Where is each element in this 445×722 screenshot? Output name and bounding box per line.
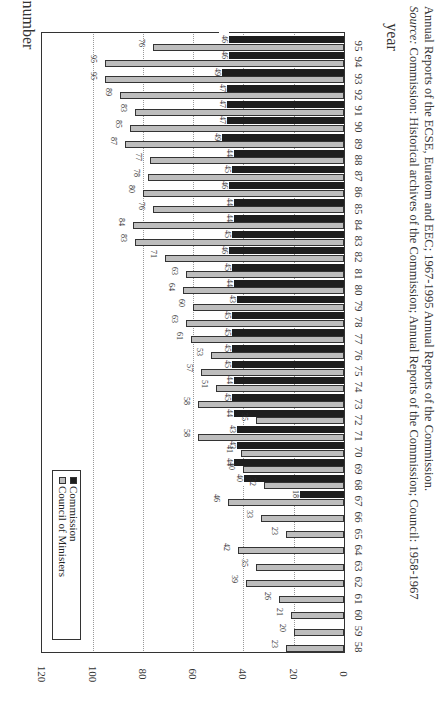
bar-council bbox=[150, 157, 344, 164]
bar-council bbox=[211, 352, 344, 359]
council-value-label: 85 bbox=[113, 116, 123, 132]
bar-council bbox=[191, 336, 344, 343]
year-tick-label: 95 bbox=[353, 34, 365, 58]
council-value-label: 83 bbox=[118, 100, 128, 116]
council-value-label: 46 bbox=[211, 490, 221, 506]
council-value-label: 39 bbox=[229, 571, 239, 587]
bar-council bbox=[133, 222, 344, 229]
legend: Council of Ministers Commission bbox=[52, 470, 81, 640]
bar-commission bbox=[233, 410, 344, 417]
bar-council bbox=[243, 466, 344, 473]
bar-commission bbox=[226, 85, 344, 92]
bar-council bbox=[291, 612, 344, 619]
source-caption-line1: Source: Commission: Historical archives … bbox=[406, 6, 421, 600]
bar-commission bbox=[231, 312, 344, 319]
value-tick-label: 120 bbox=[36, 662, 48, 686]
bar-commission bbox=[233, 459, 344, 466]
bar-commission bbox=[231, 166, 344, 173]
value-tick-label: 80 bbox=[137, 662, 149, 686]
y-axis-title: number bbox=[19, 1, 37, 50]
bar-commission bbox=[236, 296, 344, 303]
council-value-label: 64 bbox=[166, 279, 176, 295]
value-tick-label: 0 bbox=[338, 662, 350, 686]
bar-council bbox=[105, 60, 344, 67]
bar-council bbox=[143, 190, 344, 197]
bar-council bbox=[186, 271, 344, 278]
value-tick-label: 60 bbox=[187, 662, 199, 686]
council-value-label: 61 bbox=[174, 328, 184, 344]
bar-council bbox=[105, 76, 344, 83]
council-value-label: 87 bbox=[108, 133, 118, 149]
bar-commission bbox=[236, 442, 344, 449]
council-value-label: 95 bbox=[88, 51, 98, 67]
council-value-label: 78 bbox=[131, 165, 141, 181]
value-tick-label: 100 bbox=[87, 662, 99, 686]
council-value-label: 33 bbox=[244, 506, 254, 522]
bar-council bbox=[198, 401, 344, 408]
bar-commission bbox=[233, 150, 344, 157]
bar-council bbox=[201, 369, 344, 376]
council-value-label: 89 bbox=[103, 84, 113, 100]
x-axis-title: year bbox=[383, 23, 401, 51]
commission-swatch-icon bbox=[71, 477, 78, 484]
bar-council bbox=[125, 141, 344, 148]
source-label: Source: bbox=[407, 6, 421, 44]
source-text-1: Commission: Historical archives of the C… bbox=[407, 48, 421, 600]
council-value-label: 77 bbox=[133, 149, 143, 165]
bar-council bbox=[264, 482, 344, 489]
council-value-label: 21 bbox=[274, 604, 284, 620]
bar-commission bbox=[228, 247, 344, 254]
bar-commission bbox=[231, 231, 344, 238]
bar-council bbox=[279, 596, 344, 603]
bar-commission bbox=[228, 182, 344, 189]
legend-item-commission: Commission bbox=[68, 477, 80, 542]
council-value-label: 63 bbox=[169, 311, 179, 327]
bar-council bbox=[148, 174, 344, 181]
council-value-label: 63 bbox=[169, 263, 179, 279]
bar-commission bbox=[226, 101, 344, 108]
bar-council bbox=[256, 417, 344, 424]
bar-council bbox=[153, 44, 344, 51]
bar-council bbox=[228, 499, 344, 506]
bar-council bbox=[165, 255, 344, 262]
bar-commission bbox=[233, 280, 344, 287]
bar-council bbox=[198, 434, 344, 441]
council-value-label: 42 bbox=[221, 539, 231, 555]
value-tick-label: 40 bbox=[237, 662, 249, 686]
council-value-label: 53 bbox=[194, 344, 204, 360]
bar-commission bbox=[228, 36, 344, 43]
council-swatch-icon bbox=[60, 477, 67, 484]
council-value-label: 41 bbox=[224, 441, 234, 457]
bar-commission bbox=[243, 475, 344, 482]
bar-commission bbox=[231, 394, 344, 401]
bar-commission bbox=[221, 134, 344, 141]
legend-label-commission: Commission bbox=[68, 486, 80, 542]
council-value-label: 26 bbox=[262, 588, 272, 604]
bar-commission bbox=[221, 69, 344, 76]
council-value-label: 40 bbox=[226, 458, 236, 474]
bar-commission bbox=[233, 199, 344, 206]
bar-commission bbox=[226, 117, 344, 124]
council-value-label: 76 bbox=[136, 35, 146, 51]
bar-council bbox=[183, 287, 344, 294]
bar-council bbox=[256, 564, 344, 571]
council-value-label: 57 bbox=[184, 360, 194, 376]
source-caption-line2: Annual Reports of the ECSE, Euratom and … bbox=[421, 6, 436, 491]
bar-commission bbox=[233, 377, 344, 384]
bar-commission bbox=[231, 345, 344, 352]
bar-commission bbox=[233, 215, 344, 222]
bar-commission bbox=[231, 329, 344, 336]
bar-council bbox=[186, 320, 344, 327]
council-value-label: 95 bbox=[88, 68, 98, 84]
gridline bbox=[93, 34, 94, 651]
council-value-label: 23 bbox=[269, 523, 279, 539]
council-value-label: 83 bbox=[118, 230, 128, 246]
bar-commission bbox=[228, 52, 344, 59]
bar-commission bbox=[236, 426, 344, 433]
council-value-label: 76 bbox=[136, 198, 146, 214]
council-value-label: 84 bbox=[116, 214, 126, 230]
council-value-label: 35 bbox=[239, 409, 249, 425]
bar-council bbox=[130, 125, 344, 132]
bar-council bbox=[261, 515, 344, 522]
council-value-label: 51 bbox=[199, 376, 209, 392]
